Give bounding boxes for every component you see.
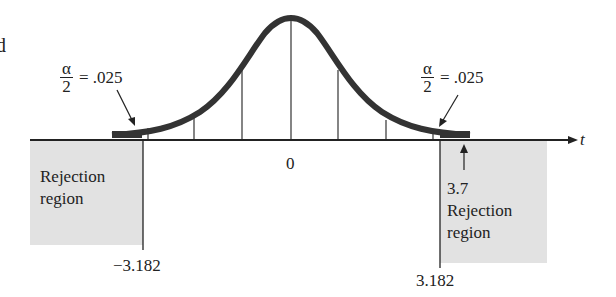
right-critical-value: 3.182 [416, 272, 454, 290]
left-critical-value: −3.182 [113, 257, 161, 275]
right-tail-area [440, 131, 470, 138]
right-alpha-annotation: α 2 = .025 [421, 60, 484, 95]
axis-arrow-icon [568, 136, 578, 144]
left-tail-area [112, 131, 142, 138]
center-label: 0 [286, 155, 295, 173]
right-region-label-2: region [447, 224, 490, 242]
test-statistic-label: 3.7 [447, 180, 468, 198]
right-alpha-arrowhead-icon [439, 118, 447, 127]
left-region-label-1: Rejection [40, 168, 105, 186]
right-alpha-arrow [442, 95, 458, 122]
right-region-label-1: Rejection [447, 202, 512, 220]
alpha-symbol: α [62, 60, 71, 77]
left-region-label-2: region [40, 190, 83, 208]
left-alpha-annotation: α 2 = .025 [60, 60, 123, 95]
t-distribution-diagram [0, 0, 616, 297]
left-alpha-arrowhead-icon [128, 117, 135, 126]
alpha-symbol: α [423, 60, 432, 77]
axis-label-t: t [580, 131, 585, 149]
curve-ordinates [148, 21, 433, 140]
